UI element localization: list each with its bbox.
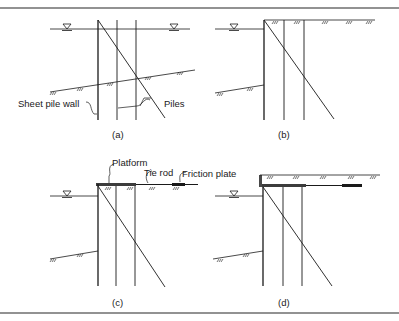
panel-b bbox=[215, 20, 375, 120]
label-piles: Piles bbox=[164, 98, 185, 109]
platform bbox=[96, 183, 136, 186]
retaining-structure-figure: Sheet pile wall Piles (a) (b) bbox=[0, 0, 399, 321]
label-platform: Platform bbox=[112, 157, 147, 168]
label-tie-rod: Tie rod bbox=[144, 167, 173, 178]
label-friction-plate: Friction plate bbox=[182, 168, 236, 179]
caption-c: (c) bbox=[112, 297, 123, 308]
batter-pile bbox=[98, 186, 165, 287]
panel-c bbox=[50, 164, 198, 287]
caption-b: (b) bbox=[278, 129, 290, 140]
panel-d bbox=[213, 175, 380, 286]
label-sheet-pile-wall: Sheet pile wall bbox=[18, 98, 79, 109]
batter-pile bbox=[98, 20, 165, 118]
lower-ground-line bbox=[215, 85, 264, 93]
ground-line bbox=[50, 70, 195, 92]
leader-piles bbox=[118, 99, 150, 108]
leader-wall bbox=[86, 102, 97, 114]
batter-pile bbox=[264, 20, 334, 119]
lower-ground-line bbox=[213, 251, 263, 259]
batter-pile bbox=[263, 187, 332, 286]
caption-d: (d) bbox=[278, 297, 290, 308]
caption-a: (a) bbox=[112, 129, 124, 140]
ground-line bbox=[50, 251, 98, 259]
platform bbox=[262, 184, 306, 187]
platform-wall-cap bbox=[259, 175, 262, 187]
friction-plate bbox=[172, 183, 185, 186]
friction-plate bbox=[342, 184, 362, 187]
